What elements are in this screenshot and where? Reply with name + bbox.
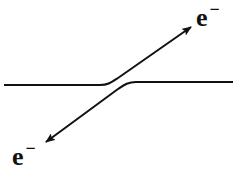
trajectory-upper-right bbox=[4, 27, 191, 85]
electron-symbol: e bbox=[12, 142, 24, 171]
electron-label-top: e− bbox=[196, 5, 220, 31]
electron-label-bottom: e− bbox=[12, 144, 36, 170]
negative-charge-superscript: − bbox=[26, 138, 36, 158]
negative-charge-superscript: − bbox=[210, 0, 220, 19]
trajectory-lower-left bbox=[46, 82, 233, 142]
electron-symbol: e bbox=[196, 3, 208, 32]
